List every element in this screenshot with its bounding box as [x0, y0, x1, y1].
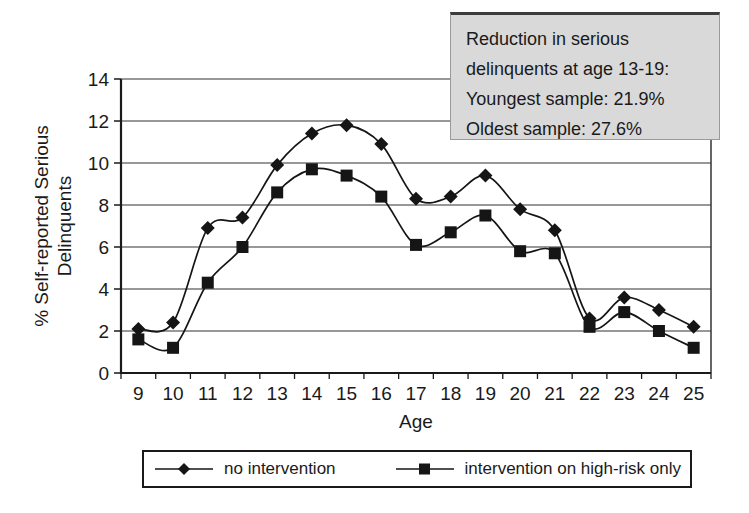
marker-square: [410, 239, 422, 251]
x-tick-label: 15: [336, 383, 357, 404]
annotation-box: Reduction in serious delinquents at age …: [450, 12, 720, 140]
y-tick-label: 4: [98, 279, 109, 300]
y-tick-label: 6: [98, 237, 109, 258]
marker-square: [271, 186, 283, 198]
marker-diamond: [340, 118, 354, 132]
marker-square: [445, 226, 457, 238]
x-tick-label: 12: [232, 383, 253, 404]
y-tick-label: 2: [98, 321, 109, 342]
series-line-no-intervention: [138, 125, 693, 332]
marker-square: [514, 245, 526, 257]
marker-square: [167, 342, 179, 354]
x-tick-label: 19: [475, 383, 496, 404]
marker-diamond: [444, 190, 458, 204]
marker-square: [306, 163, 318, 175]
marker-square: [202, 277, 214, 289]
x-tick-label: 20: [510, 383, 531, 404]
marker-square: [688, 342, 700, 354]
marker-square: [479, 210, 491, 222]
legend-item-no-intervention: no intervention: [153, 459, 336, 479]
legend: no intervention intervention on high-ris…: [142, 450, 692, 488]
x-tick-label: 10: [162, 383, 183, 404]
diamond-marker-icon: [153, 461, 215, 477]
marker-diamond: [548, 223, 562, 237]
x-tick-label: 13: [267, 383, 288, 404]
annotation-line: Reduction in serious: [466, 24, 713, 54]
x-tick-label: 11: [198, 383, 218, 404]
y-tick-label: 0: [98, 363, 109, 384]
x-tick-label: 25: [683, 383, 704, 404]
marker-diamond: [478, 169, 492, 183]
x-tick-label: 9: [133, 383, 144, 404]
y-tick-label: 14: [88, 69, 110, 90]
x-tick-label: 18: [440, 383, 461, 404]
legend-label: intervention on high-risk only: [465, 459, 681, 479]
marker-square: [132, 333, 144, 345]
marker-square: [549, 247, 561, 259]
annotation-line: Oldest sample: 27.6%: [466, 114, 713, 144]
marker-diamond: [652, 303, 666, 317]
x-tick-label: 22: [579, 383, 600, 404]
x-tick-label: 17: [405, 383, 426, 404]
x-tick-label: 21: [544, 383, 565, 404]
x-tick-label: 23: [614, 383, 635, 404]
marker-diamond: [687, 320, 701, 334]
marker-square: [236, 241, 248, 253]
x-tick-label: 24: [648, 383, 670, 404]
marker-square: [653, 325, 665, 337]
marker-square: [584, 321, 596, 333]
legend-label: no intervention: [224, 459, 336, 479]
x-axis-title: Age: [121, 411, 711, 433]
annotation-line: delinquents at age 13-19:: [466, 54, 713, 84]
marker-square: [618, 306, 630, 318]
square-marker-icon: [394, 461, 456, 477]
y-tick-label: 12: [88, 111, 109, 132]
y-tick-label: 8: [98, 195, 109, 216]
x-tick-label: 14: [301, 383, 323, 404]
x-tick-label: 16: [371, 383, 392, 404]
legend-item-intervention-high-risk: intervention on high-risk only: [394, 459, 681, 479]
marker-diamond: [305, 127, 319, 141]
delinquency-chart-figure: 0246810121491011121314151617181920212223…: [0, 0, 749, 513]
annotation-line: Youngest sample: 21.9%: [466, 84, 713, 114]
marker-square: [375, 191, 387, 203]
marker-square: [341, 170, 353, 182]
marker-diamond: [617, 290, 631, 304]
y-tick-label: 10: [88, 153, 109, 174]
y-axis-title: % Self-reported Serious Delinquents: [30, 101, 76, 351]
